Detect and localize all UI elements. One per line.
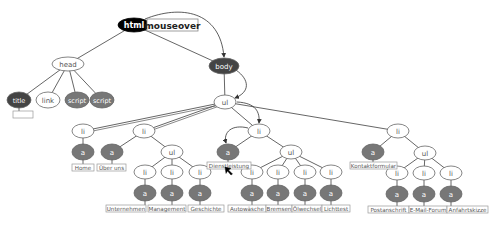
- node-a4b: a: [413, 186, 435, 202]
- node-label: head: [59, 61, 76, 69]
- node-label: ul: [169, 149, 175, 157]
- text-node-box: [13, 111, 33, 118]
- node-label: li: [449, 170, 453, 178]
- event-arrow: [237, 102, 259, 123]
- node-label: a: [226, 149, 230, 157]
- text-node-label: Über uns: [99, 164, 124, 171]
- node-ul0: ul: [214, 95, 236, 109]
- node-label: li: [396, 128, 400, 136]
- text-node-label: Kontaktformular: [351, 163, 397, 169]
- node-li4: li: [387, 124, 409, 138]
- text-node-box: Lichttest: [322, 205, 350, 212]
- text-node-box: Postanschrift: [368, 206, 409, 213]
- node-label: html: [124, 21, 145, 30]
- text-node-box: Geschichte: [188, 205, 224, 212]
- tree-edges: [19, 25, 451, 206]
- text-node-label: Autowäsche: [230, 206, 265, 212]
- node-a3b: a: [267, 185, 289, 201]
- node-label: a: [198, 190, 202, 198]
- node-label: a: [250, 190, 254, 198]
- node-label: title: [13, 97, 26, 105]
- node-label: li: [303, 169, 307, 177]
- text-node-box: Home: [72, 164, 94, 171]
- text-node-box: Ölwechsel: [292, 205, 322, 212]
- text-node-label: Management: [149, 206, 187, 213]
- node-a2b: a: [161, 185, 183, 201]
- event-label-text: mouseover: [144, 21, 201, 31]
- node-ul3: ul: [280, 145, 302, 159]
- text-node-box: Management: [148, 205, 186, 213]
- text-node-label: Unternehmen: [107, 206, 146, 212]
- node-a_dienst: a: [217, 144, 239, 160]
- node-label: li: [395, 170, 399, 178]
- node-li2a: li: [134, 165, 156, 179]
- node-label: ul: [422, 150, 428, 158]
- node-label: ul: [222, 99, 228, 107]
- text-node-box: Über uns: [97, 164, 126, 171]
- node-label: li: [143, 169, 147, 177]
- node-label: a: [110, 149, 114, 157]
- node-li3: li: [248, 124, 270, 138]
- node-a_ueber: a: [101, 144, 123, 160]
- text-node-box: Kontaktformular: [350, 162, 397, 169]
- node-label: li: [198, 169, 202, 177]
- node-label: a: [143, 190, 147, 198]
- node-link: link: [36, 92, 60, 108]
- mouseover-event-label: mouseover: [144, 19, 201, 31]
- text-node-box: Anfahrtskizze: [447, 206, 488, 213]
- node-a4c: a: [440, 186, 462, 202]
- node-li3d: li: [320, 165, 342, 179]
- node-label: li: [250, 169, 254, 177]
- text-node-box: Bremsen: [266, 205, 292, 212]
- node-a2a: a: [134, 185, 156, 201]
- node-label: a: [371, 149, 375, 157]
- node-label: a: [449, 191, 453, 199]
- text-node-label: E-Mail-Forum: [410, 207, 447, 213]
- node-label: a: [81, 149, 85, 157]
- node-a_kontakt: a: [362, 144, 384, 160]
- node-li1: li: [72, 124, 94, 138]
- event-propagation-arrows: [145, 12, 259, 143]
- node-label: body: [215, 63, 232, 71]
- node-script1: script: [65, 92, 89, 108]
- node-ul4: ul: [414, 146, 436, 160]
- text-node-label: Postanschrift: [370, 207, 407, 213]
- node-a4a: a: [386, 186, 408, 202]
- node-a3d: a: [320, 185, 342, 201]
- dom-tree-diagram: htmlheadbodytitlelinkscriptscriptullilil…: [0, 0, 494, 226]
- node-label: a: [422, 191, 426, 199]
- node-label: li: [422, 170, 426, 178]
- text-node-label: Home: [75, 165, 92, 171]
- text-node-label: Geschichte: [190, 206, 222, 212]
- node-label: li: [81, 128, 85, 136]
- node-label: ul: [288, 149, 294, 157]
- node-li3b: li: [267, 165, 289, 179]
- node-a2c: a: [189, 185, 211, 201]
- text-node-box: Autowäsche: [228, 205, 266, 212]
- node-label: li: [170, 169, 174, 177]
- node-label: a: [170, 190, 174, 198]
- node-ul2: ul: [161, 145, 183, 159]
- text-node-box: Unternehmen: [106, 205, 146, 212]
- text-node-label: Lichttest: [324, 206, 349, 212]
- text-node-label: Bremsen: [267, 206, 292, 212]
- node-label: li: [257, 128, 261, 136]
- event-arrow: [235, 70, 246, 98]
- node-label: li: [329, 169, 333, 177]
- text-node-label: Ölwechsel: [293, 205, 322, 212]
- text-node-label: Anfahrtskizze: [449, 207, 487, 213]
- node-label: a: [329, 190, 333, 198]
- node-li4c: li: [440, 166, 462, 180]
- node-li3c: li: [294, 165, 316, 179]
- node-head: head: [52, 57, 84, 71]
- node-label: a: [276, 190, 280, 198]
- node-script2: script: [90, 92, 114, 108]
- node-label: a: [303, 190, 307, 198]
- node-body: body: [209, 58, 239, 74]
- node-li2: li: [133, 124, 155, 138]
- tree-edge: [144, 104, 225, 133]
- node-label: a: [395, 191, 399, 199]
- node-label: script: [68, 97, 87, 105]
- node-a_home: a: [72, 144, 94, 160]
- node-a3a: a: [241, 185, 263, 201]
